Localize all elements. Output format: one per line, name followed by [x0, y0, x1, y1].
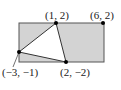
label-6-2: (6, 2): [90, 9, 114, 22]
label-1-2: (1, 2): [45, 9, 69, 22]
point-2-neg2: [64, 60, 68, 64]
point-neg3-neg1: [17, 50, 21, 54]
point-6-2: [101, 21, 105, 25]
diagram-canvas: (1, 2) (6, 2) (−3, −1) (2, −2): [0, 0, 121, 90]
label-leader-line: [13, 52, 19, 67]
label-neg3-neg1: (−3, −1): [2, 66, 39, 79]
point-1-2: [54, 21, 58, 25]
label-2-neg2: (2, −2): [60, 66, 90, 79]
